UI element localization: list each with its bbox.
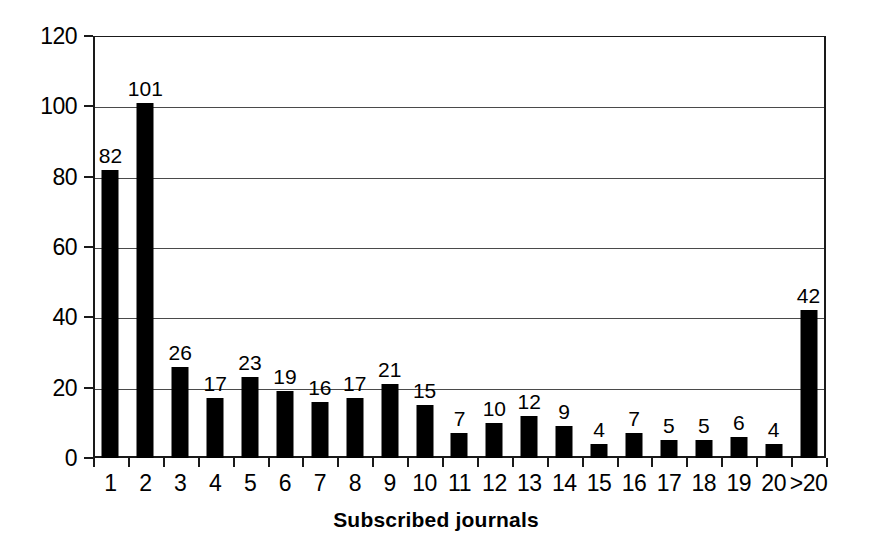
bar	[451, 433, 468, 458]
bar-value-label: 7	[454, 408, 466, 429]
bar-group: 5	[651, 36, 686, 458]
bar-value-label: 4	[768, 419, 780, 440]
x-tick-mark	[512, 458, 514, 467]
bar-value-label: 6	[733, 412, 745, 433]
x-tick-mark	[198, 458, 200, 467]
x-tick-label: 7	[314, 472, 326, 495]
x-tick-mark	[756, 458, 758, 467]
y-tick-label: 100	[40, 95, 77, 118]
x-tick-mark	[93, 458, 95, 467]
bar-value-label: 26	[169, 342, 192, 363]
x-tick-label: >20	[790, 472, 828, 495]
y-tick-mark	[84, 457, 93, 459]
bar-value-label: 101	[128, 78, 163, 99]
x-tick-mark	[233, 458, 235, 467]
x-tick-label: 10	[412, 472, 437, 495]
bar-value-label: 12	[518, 391, 541, 412]
x-tick-label: 15	[587, 472, 612, 495]
bar-group: 4	[756, 36, 791, 458]
y-tick-mark	[84, 387, 93, 389]
x-tick-label: 20	[761, 472, 786, 495]
bar-value-label: 19	[273, 366, 296, 387]
x-tick-label: 11	[448, 472, 471, 495]
x-tick-label: 14	[552, 472, 577, 495]
bar-group: 4	[582, 36, 617, 458]
x-tick-label: 19	[726, 472, 751, 495]
bar-value-label: 5	[698, 415, 710, 436]
y-tick-label: 0	[65, 447, 77, 470]
bar-group: 19	[268, 36, 303, 458]
bar-value-label: 17	[343, 373, 366, 394]
bar	[172, 367, 189, 458]
x-tick-label: 4	[209, 472, 221, 495]
x-tick-mark	[721, 458, 723, 467]
bar-group: 23	[233, 36, 268, 458]
bar-value-label: 42	[797, 285, 820, 306]
bars-layer: 82101261723191617211571012947556442	[93, 36, 826, 458]
bar-value-label: 82	[99, 145, 122, 166]
y-tick-mark	[84, 316, 93, 318]
bar-group: 101	[128, 36, 163, 458]
bar-value-label: 5	[663, 415, 675, 436]
bar	[765, 444, 782, 458]
y-tick-label: 80	[52, 165, 77, 188]
x-tick-label: 17	[657, 472, 682, 495]
x-tick-mark	[337, 458, 339, 467]
bar	[591, 444, 608, 458]
y-tick-label: 60	[52, 236, 77, 259]
x-tick-mark	[826, 458, 828, 467]
x-axis: 1234567891011121314151617181920>20	[93, 458, 826, 504]
x-tick-mark	[268, 458, 270, 467]
bar	[695, 440, 712, 458]
x-tick-mark	[617, 458, 619, 467]
y-tick-mark	[84, 246, 93, 248]
x-tick-mark	[128, 458, 130, 467]
bar-group: 42	[791, 36, 826, 458]
y-tick-mark	[84, 176, 93, 178]
bar-group: 7	[617, 36, 652, 458]
x-tick-mark	[582, 458, 584, 467]
bar-chart-figure: 020406080100120 821012617231916172115710…	[0, 0, 872, 558]
x-tick-label: 18	[692, 472, 717, 495]
y-tick-label: 20	[52, 376, 77, 399]
bar-value-label: 16	[308, 377, 331, 398]
bar-group: 15	[407, 36, 442, 458]
bar-value-label: 23	[238, 352, 261, 373]
bar	[311, 402, 328, 458]
bar-group: 5	[686, 36, 721, 458]
bar-group: 17	[337, 36, 372, 458]
x-tick-label: 5	[244, 472, 256, 495]
x-tick-mark	[302, 458, 304, 467]
bar	[556, 426, 573, 458]
bar-value-label: 17	[203, 373, 226, 394]
x-axis-title: Subscribed journals	[0, 508, 872, 532]
x-tick-mark	[442, 458, 444, 467]
bar	[102, 170, 119, 458]
x-tick-label: 2	[139, 472, 151, 495]
x-tick-label: 8	[349, 472, 361, 495]
x-tick-label: 9	[384, 472, 396, 495]
bar-group: 7	[442, 36, 477, 458]
y-axis: 020406080100120	[0, 0, 93, 458]
bar	[137, 103, 154, 458]
bar	[416, 405, 433, 458]
x-tick-mark	[163, 458, 165, 467]
bar	[521, 416, 538, 458]
bar-group: 16	[302, 36, 337, 458]
bar-group: 26	[163, 36, 198, 458]
bar-group: 6	[721, 36, 756, 458]
bar-value-label: 9	[558, 401, 570, 422]
x-tick-mark	[372, 458, 374, 467]
bar	[800, 310, 817, 458]
x-tick-label: 1	[104, 472, 116, 495]
bar	[486, 423, 503, 458]
y-tick-label: 120	[40, 25, 77, 48]
bar-group: 12	[512, 36, 547, 458]
x-tick-label: 3	[174, 472, 186, 495]
x-tick-mark	[477, 458, 479, 467]
bar-value-label: 10	[483, 398, 506, 419]
bar-value-label: 4	[593, 419, 605, 440]
bar	[207, 398, 224, 458]
bar	[381, 384, 398, 458]
bar	[660, 440, 677, 458]
